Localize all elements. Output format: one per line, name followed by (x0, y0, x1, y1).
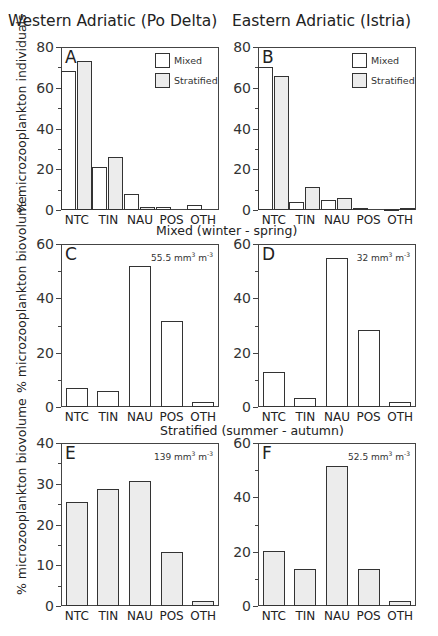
x-category-label: NAU (320, 610, 354, 622)
legend-label-mixed: Mixed (174, 55, 202, 66)
x-category-label: OTH (383, 214, 417, 226)
biovolume-annotation: 139 mm3 m-3 (154, 450, 213, 462)
legend-label-stratified: Stratified (371, 75, 415, 86)
y-tick (56, 484, 61, 485)
y-tick-label: 0 (221, 203, 251, 217)
y-tick-label: 40 (24, 122, 54, 136)
x-category-label: NTC (257, 214, 291, 226)
bar-oth (389, 601, 411, 606)
y-tick-label: 20 (24, 162, 54, 176)
y-tick (253, 47, 258, 48)
column-title-east: Eastern Adriatic (Istria) (232, 12, 411, 30)
bar-tin (97, 489, 119, 606)
panel-letter: C (65, 246, 77, 263)
y-minor-tick (58, 463, 61, 464)
y-minor-tick (255, 326, 258, 327)
y-tick-label: 40 (221, 490, 251, 504)
bar-nau (129, 481, 151, 606)
bar-pos (358, 569, 380, 606)
x-category-label: POS (155, 610, 189, 622)
y-tick (56, 298, 61, 299)
bar-tin-mixed (92, 167, 107, 210)
x-category-label: NTC (60, 610, 94, 622)
y-tick (56, 210, 61, 211)
column-title-west: Western Adriatic (Po Delta) (8, 12, 217, 30)
bar-ntc-stratified (77, 61, 92, 210)
x-category-label: OTH (186, 411, 220, 423)
x-category-label: TIN (91, 411, 125, 423)
x-category-label: POS (155, 214, 189, 226)
y-minor-tick (58, 326, 61, 327)
bar-ntc-mixed (61, 71, 76, 210)
x-category-label: POS (352, 214, 386, 226)
bar-ntc-stratified (274, 76, 289, 210)
x-category-label: NTC (60, 214, 94, 226)
panel-letter: D (262, 246, 275, 263)
y-tick (56, 443, 61, 444)
x-category-label: NAU (320, 411, 354, 423)
legend-swatch-stratified (155, 73, 170, 88)
y-tick (253, 497, 258, 498)
y-tick (253, 407, 258, 408)
y-tick-label: 0 (221, 400, 251, 414)
x-category-label: POS (352, 610, 386, 622)
y-tick-label: 80 (221, 40, 251, 54)
y-tick (56, 244, 61, 245)
y-tick (56, 407, 61, 408)
y-tick (253, 606, 258, 607)
y-tick (253, 353, 258, 354)
bar-tin (97, 391, 119, 407)
legend-swatch-mixed (352, 53, 367, 68)
bar-ntc (263, 372, 285, 407)
y-minor-tick (58, 67, 61, 68)
bar-nau-stratified (337, 198, 352, 210)
x-category-label: OTH (186, 214, 220, 226)
y-minor-tick (255, 470, 258, 471)
legend-swatch-mixed (155, 53, 170, 68)
y-minor-tick (58, 271, 61, 272)
bar-ntc-mixed (258, 67, 273, 210)
y-tick-label: 80 (24, 40, 54, 54)
x-category-label: OTH (383, 411, 417, 423)
y-minor-tick (58, 545, 61, 546)
y-tick-label: 20 (221, 346, 251, 360)
y-tick (56, 606, 61, 607)
y-tick-label: 0 (24, 400, 54, 414)
y-minor-tick (255, 525, 258, 526)
y-minor-tick (58, 504, 61, 505)
y-tick-label: 0 (24, 599, 54, 613)
bar-nau-mixed (124, 194, 139, 210)
bar-tin (294, 569, 316, 606)
y-tick (56, 353, 61, 354)
y-tick-label: 40 (24, 436, 54, 450)
bar-oth-mixed (187, 205, 202, 210)
y-tick-label: 60 (221, 237, 251, 251)
y-tick-label: 40 (221, 291, 251, 305)
y-tick (56, 47, 61, 48)
y-tick-label: 60 (24, 237, 54, 251)
bar-tin-stratified (108, 157, 123, 210)
panel-letter: B (262, 49, 274, 66)
y-tick (56, 525, 61, 526)
x-category-label: TIN (91, 214, 125, 226)
x-category-label: NAU (123, 214, 157, 226)
bar-nau (326, 258, 348, 407)
y-tick (253, 298, 258, 299)
y-tick-label: 20 (221, 545, 251, 559)
y-minor-tick (58, 380, 61, 381)
x-category-label: OTH (186, 610, 220, 622)
y-minor-tick (58, 586, 61, 587)
y-tick-label: 20 (24, 346, 54, 360)
bar-ntc (66, 388, 88, 407)
y-minor-tick (255, 579, 258, 580)
y-tick-label: 30 (24, 477, 54, 491)
y-tick-label: 20 (24, 518, 54, 532)
bar-pos-mixed (156, 207, 171, 210)
x-category-label: TIN (288, 411, 322, 423)
bar-oth-stratified (400, 208, 415, 210)
y-tick-label: 40 (24, 291, 54, 305)
bar-pos (161, 321, 183, 407)
x-category-label: TIN (288, 610, 322, 622)
x-category-label: NAU (320, 214, 354, 226)
panel-letter: F (262, 445, 272, 462)
